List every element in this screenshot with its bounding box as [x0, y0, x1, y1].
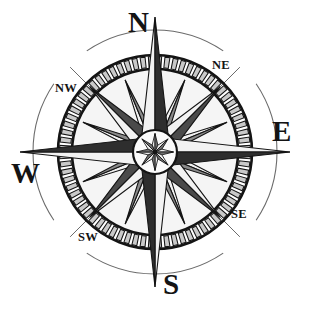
center-hub — [133, 130, 177, 174]
label-east: E — [272, 117, 291, 146]
label-southeast: SE — [231, 208, 247, 221]
label-northwest: NW — [55, 82, 77, 95]
compass-rose-image: N E S W NE SE SW NW — [0, 0, 310, 311]
label-south: S — [163, 270, 179, 299]
compass-rose-figure — [0, 0, 310, 311]
label-northeast: NE — [212, 59, 230, 72]
label-west: W — [11, 159, 40, 188]
label-north: N — [128, 8, 149, 37]
label-southwest: SW — [78, 231, 98, 244]
